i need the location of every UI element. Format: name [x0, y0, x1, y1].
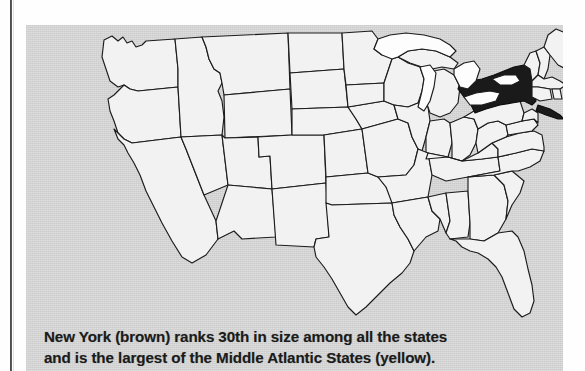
state-southdakota [290, 69, 348, 109]
state-rhodeisland [552, 89, 562, 99]
caption-line-2: and is the largest of the Middle Atlanti… [44, 347, 544, 368]
figure-caption: New York (brown) ranks 30th in size amon… [44, 326, 544, 368]
state-georgia [468, 175, 508, 241]
state-wyoming [224, 89, 292, 138]
state-connecticut [532, 87, 552, 101]
caption-line-1: New York (brown) ranks 30th in size amon… [44, 326, 544, 347]
page-canvas: New York (brown) ranks 30th in size amon… [0, 0, 585, 371]
page-gutter-highlight [13, 0, 14, 371]
state-ohio [450, 117, 478, 161]
state-northdakota [288, 33, 344, 73]
state-newyork-long-island [536, 105, 563, 119]
state-florida [450, 231, 534, 317]
state-arizona [216, 185, 276, 239]
state-alabama [446, 191, 470, 239]
state-washington [102, 36, 178, 91]
page-gutter-line [10, 0, 12, 371]
us-map-svg [26, 25, 563, 325]
state-kansas [324, 129, 368, 177]
state-newmexico [272, 183, 329, 247]
us-map-figure [26, 25, 563, 325]
